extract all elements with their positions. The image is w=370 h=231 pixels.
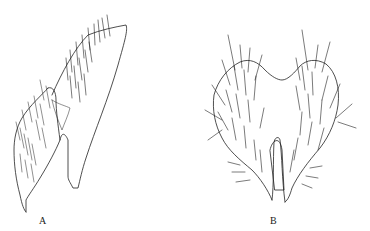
panel-a-drawing [14,15,127,212]
panel-b-drawing [205,30,356,202]
panel-label-b: B [270,216,277,226]
panel-label-a: A [39,216,46,226]
figure [0,0,370,231]
